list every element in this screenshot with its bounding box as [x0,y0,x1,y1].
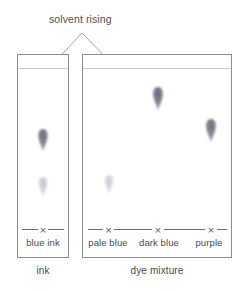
lane-label-pale-blue: pale blue [83,237,133,248]
lane-label-blue-ink: blue ink [17,237,69,248]
plate-caption-dye-mixture: dye mixture [82,265,232,276]
origin-mark-purple: × [208,224,214,236]
solvent-rising-label: solvent rising [49,13,112,25]
origin-mark-pale-blue: × [105,224,111,236]
chromatography-diagram: × × × × solvent rising blue ink pale blu… [0,0,249,291]
lane-label-dark-blue: dark blue [132,237,186,248]
origin-mark-blue-ink: × [40,224,46,236]
origin-mark-dark-blue: × [155,224,161,236]
lane-label-purple: purple [186,237,232,248]
plate-caption-ink: ink [17,265,69,276]
